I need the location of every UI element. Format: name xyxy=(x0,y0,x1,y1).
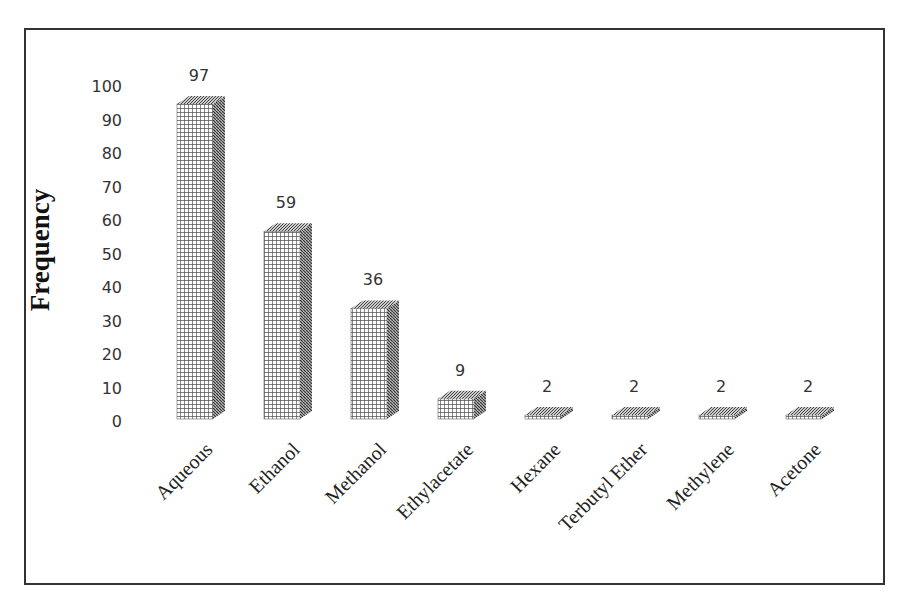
bar-value-label: 2 xyxy=(803,377,813,396)
bar-value-label: 2 xyxy=(716,377,726,396)
bar-value-label: 59 xyxy=(276,193,296,212)
bar-methylene xyxy=(699,407,747,419)
bar-value-label: 2 xyxy=(629,377,639,396)
bar-value-label: 2 xyxy=(542,377,552,396)
bar-value-label: 36 xyxy=(363,270,383,289)
bar-plot-area xyxy=(0,0,913,611)
bar-methanol xyxy=(351,300,399,419)
bar-ethylacetate xyxy=(438,391,486,419)
bar-terbutyl-ether xyxy=(612,407,660,419)
bar-value-label: 9 xyxy=(455,361,465,380)
bar-hexane xyxy=(525,407,573,419)
bar-value-label: 97 xyxy=(189,66,209,85)
bar-aqueous xyxy=(177,96,225,419)
bar-ethanol xyxy=(264,223,312,419)
bar-acetone xyxy=(786,407,834,419)
